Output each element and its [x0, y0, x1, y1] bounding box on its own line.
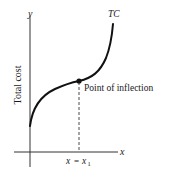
svg-text:1: 1 [88, 160, 91, 167]
x1-marker-label: x = x 1 [65, 156, 91, 167]
svg-text:x: x [81, 156, 87, 166]
total-cost-curve [30, 24, 113, 126]
svg-text:=: = [74, 156, 79, 166]
svg-text:x: x [65, 156, 71, 166]
x-axis-label: x [119, 146, 125, 157]
curve-label: TC [108, 9, 120, 19]
total-cost-diagram: y x Total cost TC Point of inflection x … [0, 0, 173, 175]
y-axis-label: y [27, 8, 33, 19]
inflection-point-marker [76, 78, 81, 83]
inflection-label: Point of inflection [84, 83, 153, 93]
y-axis-title: Total cost [12, 65, 23, 104]
